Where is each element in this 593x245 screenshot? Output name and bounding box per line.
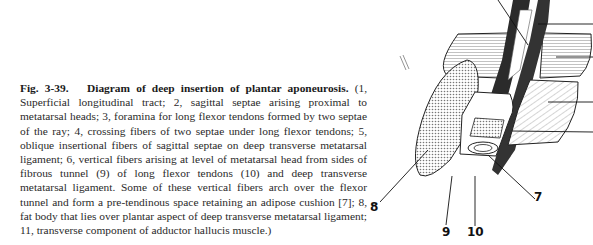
label-9: 9: [442, 225, 450, 239]
label-10: 10: [467, 225, 484, 239]
label-8: 8: [370, 200, 378, 214]
figure-caption-body: (1, Superficial longitudinal tract; 2, s…: [20, 82, 367, 236]
figure-label: Fig. 3-39.: [20, 82, 69, 94]
figure-title: Diagram of deep insertion of plantar apo…: [87, 82, 348, 94]
anatomical-diagram: 7 8 9 10: [380, 0, 593, 245]
label-7: 7: [534, 190, 542, 204]
plantar-aponeurosis-illustration: [380, 0, 593, 245]
figure-caption: Fig. 3-39. Diagram of deep insertion of …: [20, 81, 367, 237]
